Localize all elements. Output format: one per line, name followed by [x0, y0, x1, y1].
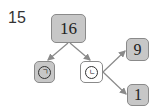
arrow-right-to-9: [103, 51, 125, 72]
node-right-unknown: ㄴ: [80, 61, 103, 83]
circled-letter-nieun: ㄴ: [85, 66, 98, 79]
arrow-root-to-right: [70, 43, 90, 60]
node-root: 16: [51, 14, 86, 43]
arrow-root-to-left: [48, 43, 68, 60]
node-one: 1: [127, 84, 149, 106]
arrow-right-to-1: [103, 72, 126, 94]
circled-letter-giyeok: ㄱ: [38, 66, 51, 79]
node-nine: 9: [126, 38, 149, 61]
node-nine-value: 9: [134, 41, 142, 59]
node-one-value: 1: [134, 86, 142, 104]
node-left-unknown: ㄱ: [34, 61, 55, 83]
node-root-value: 16: [60, 19, 77, 39]
